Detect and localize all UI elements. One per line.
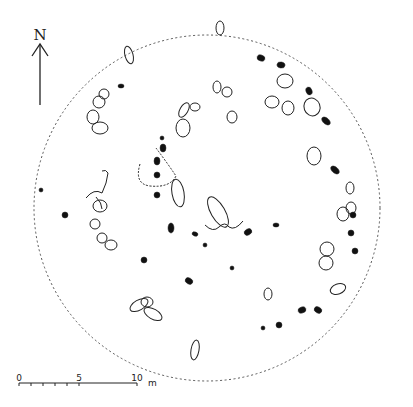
stone-outline — [142, 305, 164, 324]
stone-outline — [320, 242, 334, 256]
stone-hole-filled — [243, 227, 253, 236]
stone-hole-filled — [313, 305, 323, 314]
stone-outline — [128, 296, 150, 315]
stone-hole-filled — [329, 164, 341, 175]
stone-hole-filled — [168, 223, 174, 233]
stone-hole-filled — [256, 54, 266, 62]
stone-outline — [301, 96, 322, 118]
stone-outline — [227, 111, 237, 123]
stone-outline — [265, 96, 279, 108]
stones-filled-group — [39, 54, 358, 330]
stone-hole-filled — [62, 212, 68, 218]
stone-hole-filled — [184, 276, 194, 285]
stone-hole-filled — [141, 257, 147, 263]
stone-outline — [282, 101, 294, 115]
stone-hole-filled — [154, 192, 160, 198]
stone-hole-filled — [160, 136, 164, 140]
stone-hole-filled — [277, 61, 286, 68]
stone-hole-filled — [320, 115, 332, 126]
trench-trace — [205, 221, 243, 230]
stone-outline — [216, 21, 224, 35]
stone-hole-filled — [39, 188, 43, 192]
scale-tick-10: 10 — [131, 373, 143, 383]
scale-unit: m — [148, 378, 157, 388]
stone-hole-filled — [118, 84, 124, 88]
stone-outline — [176, 119, 190, 137]
stone-outline — [213, 81, 221, 93]
stone-outline — [329, 282, 347, 297]
stone-outline — [203, 194, 232, 230]
stone-outline — [189, 339, 200, 360]
stone-outline — [177, 101, 192, 119]
stone-hole-filled — [350, 212, 356, 218]
stone-outline — [319, 256, 333, 270]
stone-outline — [93, 96, 105, 108]
stone-outline — [97, 233, 107, 243]
stone-hole-filled — [352, 248, 358, 254]
trench-trace — [138, 148, 176, 186]
stone-outline — [99, 89, 109, 99]
scale-tick-5: 5 — [76, 373, 82, 383]
stone-hole-filled — [191, 231, 198, 237]
stone-outline — [141, 297, 153, 307]
stone-hole-filled — [297, 306, 307, 314]
stone-hole-filled — [305, 86, 313, 96]
stone-hole-filled — [348, 230, 354, 236]
site-plan: N 0 5 10 m — [0, 0, 413, 407]
stone-outline — [222, 87, 232, 97]
stone-hole-filled — [160, 144, 166, 152]
stone-outline — [307, 147, 321, 165]
stone-outline — [264, 288, 272, 300]
stone-hole-filled — [154, 157, 160, 165]
scale-tick-0: 0 — [16, 373, 22, 383]
stone-hole-filled — [154, 172, 160, 178]
stone-hole-filled — [230, 266, 234, 270]
north-label: N — [33, 26, 46, 44]
stone-outline — [92, 122, 108, 134]
stone-outline — [337, 207, 349, 221]
stone-hole-filled — [273, 223, 279, 227]
stone-hole-filled — [261, 326, 265, 330]
stone-outline — [105, 240, 117, 250]
stone-outline — [170, 178, 187, 208]
stone-hole-filled — [203, 243, 207, 247]
stone-outline — [90, 219, 100, 229]
boundary-circle — [34, 35, 380, 381]
stone-outline — [190, 103, 200, 111]
stone-outline — [346, 182, 354, 194]
stone-hole-filled — [276, 322, 282, 328]
stone-outline — [123, 45, 135, 64]
trench-trace — [86, 170, 108, 209]
north-arrow: N — [32, 26, 48, 105]
stone-outline — [277, 74, 293, 88]
scale-bar: 0 5 10 m — [16, 373, 157, 388]
